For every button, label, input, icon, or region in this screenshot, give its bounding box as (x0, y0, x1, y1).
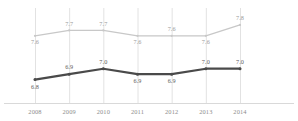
lower-data-label: 6.8 (31, 84, 39, 90)
data-point-marker (102, 67, 105, 70)
line-chart: 7.6 7.7 7.7 7.6 7.6 7.6 7.8 6.8 6.9 7.0 … (0, 0, 298, 121)
lower-data-label: 7.0 (202, 59, 210, 65)
data-point-marker (239, 24, 241, 26)
data-point-marker (68, 29, 70, 31)
x-axis-tick-label: 2008 (28, 109, 41, 115)
data-point-marker (136, 73, 139, 76)
data-point-marker (136, 35, 138, 37)
upper-data-label: 7.7 (65, 21, 73, 27)
lower-data-label: 6.9 (65, 64, 73, 70)
data-point-marker (102, 29, 104, 31)
data-point-marker (170, 73, 173, 76)
upper-data-label: 7.6 (168, 26, 176, 32)
data-point-marker (34, 78, 37, 81)
data-point-marker (239, 67, 242, 70)
lower-data-label: 6.9 (168, 78, 176, 84)
x-axis-tick-label: 2010 (97, 109, 110, 115)
x-axis-tick-label: 2009 (62, 109, 75, 115)
x-axis-tick-label: 2014 (233, 109, 246, 115)
data-point-marker (205, 35, 207, 37)
upper-data-label: 7.6 (31, 39, 39, 45)
upper-data-label: 7.7 (99, 21, 107, 27)
data-point-marker (171, 35, 173, 37)
x-axis-tick-label: 2013 (199, 109, 212, 115)
upper-data-label: 7.8 (236, 15, 244, 21)
x-axis-tick-label: 2011 (131, 109, 144, 115)
x-axis-tick-label: 2012 (165, 109, 178, 115)
upper-data-label: 7.6 (202, 39, 210, 45)
lower-data-label: 7.0 (236, 59, 244, 65)
data-point-marker (204, 67, 207, 70)
data-point-marker (34, 35, 36, 37)
data-point-marker (68, 73, 71, 76)
chart-plot-area (0, 0, 298, 121)
lower-data-label: 7.0 (99, 59, 107, 65)
upper-data-label: 7.6 (133, 39, 141, 45)
lower-data-label: 6.9 (133, 78, 141, 84)
